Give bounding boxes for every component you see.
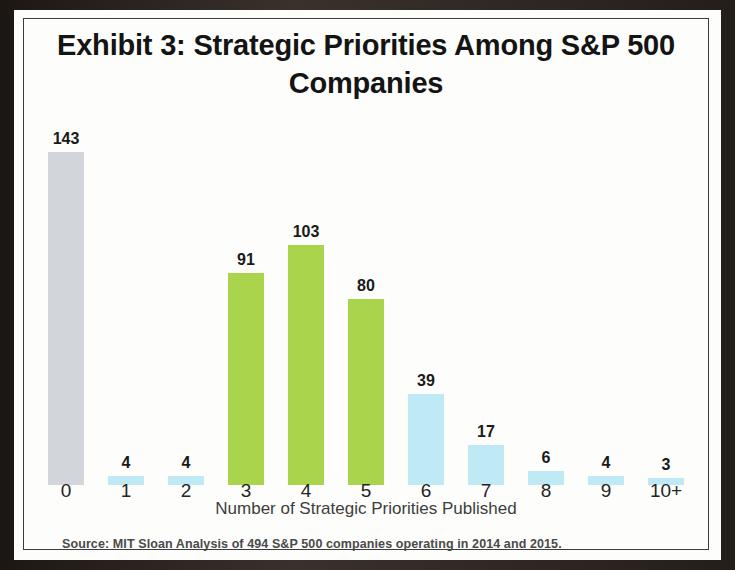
bar-group-10plus: 3 bbox=[636, 114, 696, 485]
bar-group-4: 103 bbox=[276, 114, 336, 485]
bar-value-label: 91 bbox=[237, 251, 255, 269]
bar-value-label: 4 bbox=[182, 454, 191, 472]
bar-group-9: 4 bbox=[576, 114, 636, 485]
bar bbox=[348, 299, 384, 485]
bar-group-2: 4 bbox=[156, 114, 216, 485]
bar-value-label: 3 bbox=[662, 456, 671, 474]
bar-value-label: 4 bbox=[602, 454, 611, 472]
bar-group-1: 4 bbox=[96, 114, 156, 485]
exhibit-paper: Exhibit 3: Strategic Priorities Among S&… bbox=[14, 10, 721, 560]
bar-group-5: 80 bbox=[336, 114, 396, 485]
bar-group-6: 39 bbox=[396, 114, 456, 485]
bar-group-8: 6 bbox=[516, 114, 576, 485]
page-title: Exhibit 3: Strategic Priorities Among S&… bbox=[40, 26, 692, 102]
bar-value-label: 39 bbox=[417, 372, 435, 390]
bar-group-3: 91 bbox=[216, 114, 276, 485]
bar-group-0: 143 bbox=[36, 114, 96, 485]
bar-value-label: 143 bbox=[53, 130, 80, 148]
bar-value-label: 17 bbox=[477, 423, 495, 441]
bar bbox=[48, 152, 84, 485]
x-axis-title: Number of Strategic Priorities Published bbox=[40, 499, 692, 519]
bar-chart-plot-area: 1434491103803917643 bbox=[36, 114, 696, 485]
bar-value-label: 4 bbox=[122, 454, 131, 472]
bar-value-label: 103 bbox=[293, 223, 320, 241]
bar-value-label: 6 bbox=[542, 449, 551, 467]
bar bbox=[288, 245, 324, 485]
bar bbox=[228, 273, 264, 485]
bar-group-7: 17 bbox=[456, 114, 516, 485]
bar-value-label: 80 bbox=[357, 277, 375, 295]
source-note: Source: MIT Sloan Analysis of 494 S&P 50… bbox=[62, 537, 562, 551]
bar bbox=[408, 394, 444, 485]
